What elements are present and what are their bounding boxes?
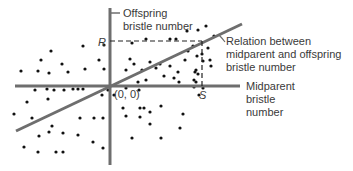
data-point <box>144 37 147 40</box>
data-point <box>148 110 151 113</box>
data-point <box>138 106 141 109</box>
data-point <box>130 41 133 44</box>
data-point <box>54 150 57 153</box>
data-point <box>76 133 79 136</box>
y-axis-label-line2: bristle number <box>123 20 193 32</box>
data-point <box>206 46 209 49</box>
data-point <box>176 70 179 73</box>
data-point <box>47 130 50 133</box>
data-point <box>97 58 100 61</box>
data-point <box>159 104 162 107</box>
data-point <box>193 70 196 73</box>
data-point <box>101 146 104 149</box>
data-point <box>81 87 84 90</box>
data-point <box>22 145 25 148</box>
line-label-line2: midparent and offspring <box>226 48 341 60</box>
data-point <box>62 88 65 91</box>
data-point <box>138 115 141 118</box>
data-point <box>46 97 49 100</box>
data-point <box>71 87 74 90</box>
data-point <box>208 58 211 61</box>
data-point <box>177 80 180 83</box>
data-point <box>128 57 131 60</box>
data-point <box>178 126 181 129</box>
line-label-line3: bristle number <box>226 61 296 73</box>
x-axis-label-line1: Midparent <box>246 80 295 92</box>
data-point <box>196 72 199 75</box>
data-point <box>168 37 171 40</box>
y-axis-label-line1: Offspring <box>123 7 167 19</box>
data-point <box>36 69 39 72</box>
data-point <box>209 64 212 67</box>
data-point <box>76 87 79 90</box>
data-point <box>192 78 195 81</box>
data-point <box>61 150 64 153</box>
data-point <box>92 116 95 119</box>
data-point <box>47 71 50 74</box>
data-point <box>91 140 94 143</box>
line-label-line1: Relation between <box>226 35 311 47</box>
data-point <box>49 49 52 52</box>
x-axis-label-line2: bristle <box>246 93 275 105</box>
data-point <box>144 78 147 81</box>
s-label: S <box>199 89 207 101</box>
data-point <box>100 93 103 96</box>
data-point <box>30 116 33 119</box>
data-point <box>159 136 162 139</box>
data-point <box>148 122 151 125</box>
data-point <box>181 112 184 115</box>
data-point <box>172 76 175 79</box>
data-point <box>25 100 28 103</box>
data-point <box>124 68 127 71</box>
data-point <box>37 134 40 137</box>
data-point <box>101 116 104 119</box>
data-point <box>148 60 151 63</box>
data-point <box>66 70 69 73</box>
data-point <box>33 88 36 91</box>
data-point <box>136 80 139 83</box>
data-point <box>204 24 207 27</box>
origin-label: (0, 0) <box>114 88 140 100</box>
data-point <box>45 87 48 90</box>
data-point <box>132 62 135 65</box>
data-point <box>196 28 199 31</box>
data-point <box>130 136 133 139</box>
data-point <box>142 106 145 109</box>
data-point <box>50 124 53 127</box>
data-point <box>19 69 22 72</box>
data-point <box>61 131 64 134</box>
data-point <box>36 150 39 153</box>
data-point <box>78 116 81 119</box>
x-axis-label-line3: number <box>246 106 284 118</box>
line-label-leader <box>219 35 225 42</box>
data-point <box>121 106 124 109</box>
r-label: R <box>98 36 106 48</box>
data-point <box>12 112 15 115</box>
data-point <box>168 64 171 67</box>
data-point <box>183 58 186 61</box>
data-point <box>60 62 63 65</box>
data-point <box>39 58 42 61</box>
data-point <box>174 37 177 40</box>
data-point <box>124 114 127 117</box>
scatter-diagram: Offspring bristle number R S (0, 0) Rela… <box>0 0 353 171</box>
data-point <box>102 67 105 70</box>
data-point <box>83 67 86 70</box>
data-point <box>81 44 84 47</box>
data-point <box>162 74 165 77</box>
data-point <box>195 54 198 57</box>
regression-line <box>16 24 242 131</box>
data-point <box>52 88 55 91</box>
